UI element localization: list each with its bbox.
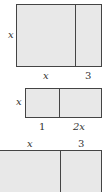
area-model-3-top-label-left: x: [27, 139, 33, 149]
area-model-2-divider: [59, 89, 60, 117]
area-model-1-divider: [75, 5, 76, 66]
area-model-1-side-label: x: [8, 30, 14, 40]
area-model-2-side-label: x: [16, 97, 22, 107]
area-model-3-divider: [60, 151, 61, 192]
area-model-1: [16, 4, 102, 67]
area-model-2: [25, 88, 102, 118]
area-model-2-bottom-label-right: 2x: [73, 122, 85, 132]
area-model-3-top-label-right: 3: [78, 139, 84, 149]
area-model-1-bottom-label-left: x: [43, 71, 49, 81]
area-model-2-bottom-label-left: 1: [39, 122, 45, 132]
area-model-1-bottom-label-right: 3: [85, 71, 91, 81]
area-model-3: [0, 150, 102, 192]
